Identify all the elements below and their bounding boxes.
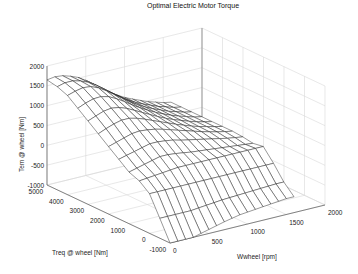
surface-plot-figure: Optimal Electric Motor Torque 0500100015… bbox=[0, 0, 358, 274]
z-tick-label: 1000 bbox=[30, 102, 45, 109]
z-tick-label: -1000 bbox=[27, 182, 44, 189]
x-tick-label: 500 bbox=[212, 238, 223, 245]
y-tick-label: -1000 bbox=[149, 246, 166, 253]
y-tick-label: 1000 bbox=[111, 227, 126, 234]
y-tick-label: 4000 bbox=[49, 198, 64, 205]
x-tick-label: 1500 bbox=[289, 219, 304, 226]
y-tick-label: 3000 bbox=[70, 207, 85, 214]
y-axis-label: Treq @ wheel [Nm] bbox=[52, 249, 108, 257]
x-axis-label: Wwheel [rpm] bbox=[237, 253, 277, 261]
z-tick-label: 0 bbox=[40, 142, 44, 149]
x-tick-label: 0 bbox=[173, 247, 177, 254]
z-tick-label: 2000 bbox=[30, 63, 45, 70]
y-tick-label: 0 bbox=[142, 236, 146, 243]
surface-mesh bbox=[47, 76, 294, 243]
x-tick-label: 1000 bbox=[251, 228, 266, 235]
y-tick-label: 5000 bbox=[29, 188, 44, 195]
x-tick-label: 2000 bbox=[328, 209, 343, 216]
chart-title: Optimal Electric Motor Torque bbox=[0, 2, 358, 9]
y-tick-label: 2000 bbox=[90, 217, 105, 224]
z-axis-label: Tem @ wheel [Nm] bbox=[18, 117, 26, 172]
surface-plot-axes: 0500100015002000-10000100020003000400050… bbox=[0, 0, 358, 274]
z-tick-label: 1500 bbox=[30, 82, 45, 89]
z-tick-label: 500 bbox=[33, 122, 44, 129]
z-tick-label: -500 bbox=[31, 162, 44, 169]
